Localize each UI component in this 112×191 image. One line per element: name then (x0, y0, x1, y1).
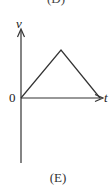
velocity-curve (21, 50, 100, 98)
figure-label: (E) (0, 170, 112, 186)
velocity-time-graph: v t 0 (0, 0, 112, 191)
v-axis-label: v (16, 16, 22, 31)
origin-label: 0 (9, 90, 16, 105)
t-axis-label: t (104, 90, 108, 105)
